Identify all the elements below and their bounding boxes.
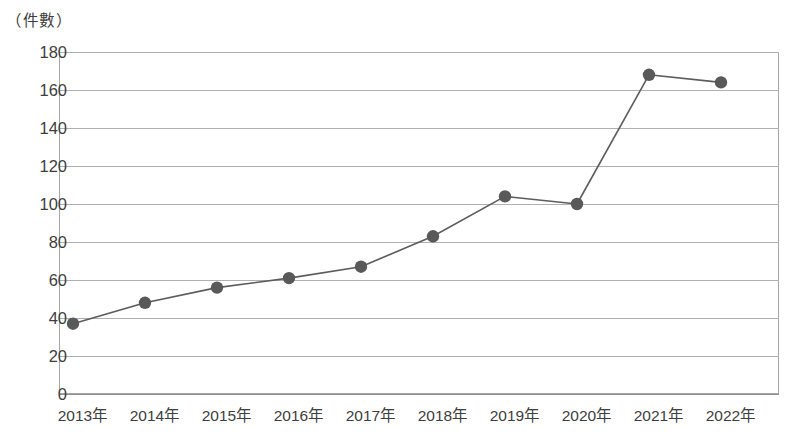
y-tick-label: 160: [7, 82, 67, 99]
gridline-20: [59, 356, 779, 357]
y-tick-label: 80: [7, 234, 67, 251]
gridline-40: [59, 318, 779, 319]
gridline-60: [59, 280, 779, 281]
gridline-100: [59, 204, 779, 205]
y-tick-label: 20: [7, 348, 67, 365]
y-tick-label: 120: [7, 158, 67, 175]
gridline-0: [59, 394, 779, 395]
y-axis-unit-label: （件數）: [6, 8, 72, 30]
gridline-80: [59, 242, 779, 243]
line-chart: （件數） 020406080100120140160180 2013年2014年…: [0, 0, 786, 437]
y-tick-label: 0: [7, 386, 67, 403]
plot-area-frame: [59, 52, 779, 394]
y-tick-label: 40: [7, 310, 67, 327]
y-tick-label: 180: [7, 44, 67, 61]
x-tick-label: 2022年: [686, 408, 776, 424]
gridline-120: [59, 166, 779, 167]
y-tick-label: 100: [7, 196, 67, 213]
gridline-140: [59, 128, 779, 129]
y-tick-label: 140: [7, 120, 67, 137]
y-tick-label: 60: [7, 272, 67, 289]
gridline-180: [59, 52, 779, 53]
gridline-160: [59, 90, 779, 91]
